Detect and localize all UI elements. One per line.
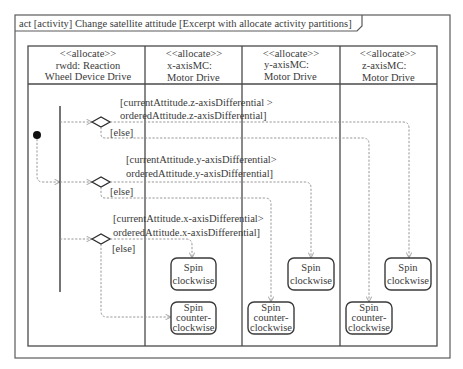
flow-x-else: [101, 244, 171, 317]
partition-type: Motor Drive: [362, 72, 415, 83]
guard-label: [currentAttitude.y-axisDifferential>: [126, 154, 277, 165]
stereotype-label: <<allocate>>: [60, 48, 116, 59]
action-x-spin-counter-clockwise: Spin counter- clockwise: [171, 302, 216, 334]
action-y-spin-clockwise: Spin clockwise: [288, 258, 334, 290]
partition-name: rwdd: Reaction: [56, 60, 121, 71]
decision-diamond-icon: [92, 117, 110, 127]
action-label: Spin: [398, 262, 418, 273]
partition-header-x-axis: <<allocate>> x-axisMC: Motor Drive: [166, 48, 222, 83]
partition-header-rwdd: <<allocate>> rwdd: Reaction Wheel Device…: [45, 48, 132, 82]
guard-label: orderedAttitude.x-axisDifferential]: [113, 227, 260, 238]
action-x-spin-clockwise: Spin clockwise: [171, 258, 216, 290]
action-label: Spin: [184, 262, 204, 273]
decision-diamond-icon: [92, 177, 110, 187]
action-label: clockwise: [173, 275, 215, 286]
decision-y-axis: [currentAttitude.y-axisDifferential> ord…: [92, 154, 277, 197]
partition-header-y-axis: <<allocate>> y-axisMC: Motor Drive: [263, 48, 319, 82]
initial-node: [33, 131, 41, 139]
partition-type: Motor Drive: [264, 71, 317, 82]
else-label: [else]: [110, 127, 133, 138]
partition-header-z-axis: <<allocate>> z-axisMC: Motor Drive: [360, 48, 416, 83]
activity-diagram: act [activity] Change satellite attitude…: [0, 0, 463, 369]
else-label: [else]: [110, 186, 133, 197]
frame-title: act [activity] Change satellite attitude…: [19, 18, 352, 29]
decision-diamond-icon: [92, 234, 110, 244]
flow-initial-to-fork: [37, 139, 60, 182]
stereotype-label: <<allocate>>: [360, 48, 416, 59]
partition-name: z-axisMC:: [362, 60, 406, 71]
action-label: clockwise: [290, 275, 332, 286]
partition-type: Motor Drive: [167, 72, 220, 83]
partition-name: x-axisMC:: [167, 60, 212, 71]
guard-label: [currentAttitude.x-axisDifferential>: [113, 213, 264, 224]
action-label: clockwise: [387, 275, 429, 286]
action-label: clockwise: [348, 322, 390, 333]
guard-label: [currentAttitude.z-axisDifferential >: [120, 97, 273, 108]
stereotype-label: <<allocate>>: [166, 48, 222, 59]
partition-name: y-axisMC:: [264, 59, 309, 70]
action-label: clockwise: [250, 322, 292, 333]
action-z-spin-counter-clockwise: Spin counter- clockwise: [346, 302, 392, 334]
guard-label: orderedAttitude.y-axisDifferential]: [126, 168, 273, 179]
guard-label: orderedAttitude.z-axisDifferential]: [120, 110, 266, 121]
decision-z-axis: [currentAttitude.z-axisDifferential > or…: [92, 97, 273, 138]
partition-type: Wheel Device Drive: [45, 71, 132, 82]
action-label: clockwise: [173, 322, 215, 333]
action-y-spin-counter-clockwise: Spin counter- clockwise: [248, 302, 294, 334]
decision-x-axis: [currentAttitude.x-axisDifferential> ord…: [92, 213, 264, 254]
action-z-spin-clockwise: Spin clockwise: [385, 258, 431, 290]
partition-table: [28, 46, 437, 346]
action-label: Spin: [301, 262, 321, 273]
else-label: [else]: [112, 243, 135, 254]
stereotype-label: <<allocate>>: [263, 48, 319, 59]
